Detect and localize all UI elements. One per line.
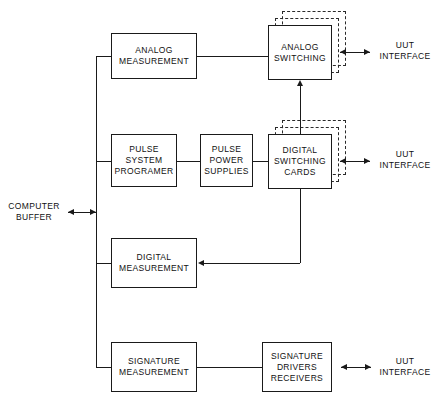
computer-buffer-arrow-left-icon [68,209,74,215]
block-pulse-system-programer-label: PULSE SYSTEM PROGRAMER [115,144,174,177]
bus-tap-digital-measurement [96,263,112,264]
block-pulse-system-programer[interactable]: PULSE SYSTEM PROGRAMER [111,134,177,187]
block-signature-measurement-label: SIGNATURE MEASUREMENT [119,356,189,378]
block-digital-measurement[interactable]: DIGITAL MEASUREMENT [111,238,197,288]
bus-tap-signature-measurement [96,367,112,368]
block-analog-measurement[interactable]: ANALOG MEASUREMENT [111,33,197,79]
computer-buffer-arrow-right-icon [90,209,96,215]
bus-tap-analog-measurement [96,56,112,57]
block-digital-measurement-label: DIGITAL MEASUREMENT [119,252,189,274]
block-digital-switching-cards-label: DIGITAL SWITCHING CARDS [274,145,326,178]
block-signature-measurement[interactable]: SIGNATURE MEASUREMENT [111,342,197,392]
computer-buffer-label: COMPUTER BUFFER [2,201,66,223]
block-signature-drivers-receivers-label: SIGNATURE DRIVERS RECEIVERS [271,351,323,384]
computer-buffer-bus-line [96,56,97,367]
link-signature-measurement-to-drivers-receivers [197,367,262,368]
block-digital-switching-cards[interactable]: DIGITAL SWITCHING CARDS [268,134,332,189]
signature-uut-arrow-right-icon [365,364,371,370]
block-signature-drivers-receivers[interactable]: SIGNATURE DRIVERS RECEIVERS [262,342,332,392]
digital-uut-arrow-left-icon [340,158,346,164]
uut-interface-digital-label: UUT INTERFACE [373,149,437,171]
digital-to-analog-switching-arrow-icon [297,80,303,86]
signature-uut-arrow-left-icon [341,364,347,370]
block-diagram-canvas: COMPUTER BUFFER ANALOG MEASUREMENT ANALO… [0,0,439,408]
feedback-to-digital-measurement-arrow-icon [198,260,204,266]
link-power-supplies-to-digital-switching [253,161,268,162]
analog-uut-arrow-left-icon [340,49,346,55]
link-analog-measurement-to-analog-switching [197,56,268,57]
feedback-digital-switching-horizontal [204,263,300,264]
block-analog-switching[interactable]: ANALOG SWITCHING [268,25,332,80]
bus-tap-pulse-system-programer [96,161,112,162]
block-analog-measurement-label: ANALOG MEASUREMENT [119,45,189,67]
uut-interface-signature-label: UUT INTERFACE [373,356,437,378]
analog-uut-arrow-right-icon [364,49,370,55]
block-pulse-power-supplies-label: PULSE POWER SUPPLIES [204,144,248,177]
feedback-digital-switching-vertical [300,189,301,263]
block-analog-switching-label: ANALOG SWITCHING [274,42,326,64]
link-pulse-programer-to-power-supplies [177,161,200,162]
digital-uut-arrow-right-icon [364,158,370,164]
block-pulse-power-supplies[interactable]: PULSE POWER SUPPLIES [200,134,253,187]
uut-interface-analog-label: UUT INTERFACE [373,40,437,62]
